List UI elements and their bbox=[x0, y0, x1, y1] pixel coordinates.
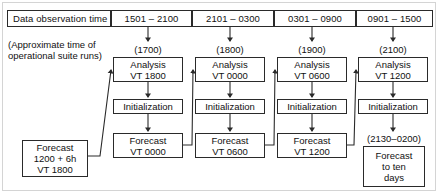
initialization-box-2: Initialization bbox=[195, 99, 265, 114]
initialization-box-1: Initialization bbox=[113, 99, 183, 114]
initialization-box-2-line-1: Initialization bbox=[205, 101, 255, 112]
run-time-annotation-1: (1700) bbox=[113, 44, 183, 55]
forecast-box-1: Forecast VT 0000 bbox=[113, 133, 183, 158]
analysis-box-3-line-1: Analysis bbox=[294, 59, 329, 70]
header-cell-observation-window-1: 1501 – 2100 bbox=[111, 10, 192, 27]
initialization-box-4-line-1: Initialization bbox=[368, 101, 418, 112]
seed-forecast-box: Forecast 1200 + 6h VT 1800 bbox=[22, 140, 88, 177]
seed-forecast-line-2: 1200 + 6h bbox=[34, 153, 77, 164]
header-cell-observation-window-2: 2101 – 0300 bbox=[192, 10, 274, 27]
seed-forecast-line-3: VT 1800 bbox=[37, 164, 73, 175]
forecast-box-4-line-3: days bbox=[384, 172, 404, 183]
analysis-box-4-line-2: VT 1200 bbox=[375, 70, 411, 81]
run-time-annotation-4: (2100) bbox=[358, 44, 428, 55]
flow-diagram-figure: Data observation time 1501 – 2100 2101 –… bbox=[0, 0, 443, 196]
initialization-box-3-line-1: Initialization bbox=[287, 101, 337, 112]
analysis-box-2-line-2: VT 0000 bbox=[212, 70, 248, 81]
analysis-box-2: Analysis VT 0000 bbox=[195, 57, 265, 82]
forecast-box-2-line-1: Forecast bbox=[212, 135, 249, 146]
forecast-box-3-line-2: VT 1200 bbox=[294, 146, 330, 157]
analysis-box-2-line-1: Analysis bbox=[212, 59, 247, 70]
analysis-box-3-line-2: VT 0600 bbox=[294, 70, 330, 81]
forecast-box-3-line-1: Forecast bbox=[294, 135, 331, 146]
forecast-box-2-line-2: VT 0600 bbox=[212, 146, 248, 157]
analysis-box-1: Analysis VT 1800 bbox=[113, 57, 183, 82]
run-time-annotation-3: (1900) bbox=[277, 44, 347, 55]
forecast-box-4-line-1: Forecast bbox=[376, 150, 413, 161]
header-cell-observation-window-3: 0301 – 0900 bbox=[274, 10, 356, 27]
seed-forecast-line-1: Forecast bbox=[37, 142, 74, 153]
side-note-line-2: operational suite runs) bbox=[8, 50, 102, 62]
run-time-annotation-2: (1800) bbox=[195, 44, 265, 55]
forecast-box-4-line-2: to ten bbox=[382, 161, 406, 172]
forecast-box-2: Forecast VT 0600 bbox=[195, 133, 265, 158]
forecast-box-1-line-1: Forecast bbox=[130, 135, 167, 146]
analysis-box-4: Analysis VT 1200 bbox=[358, 57, 428, 82]
forecast-box-4: Forecast to ten days bbox=[363, 146, 425, 187]
forecast-box-3: Forecast VT 1200 bbox=[277, 133, 347, 158]
initialization-box-3: Initialization bbox=[277, 99, 347, 114]
analysis-box-1-line-2: VT 1800 bbox=[130, 70, 166, 81]
initialization-box-1-line-1: Initialization bbox=[123, 101, 173, 112]
side-note-line-1: (Approximate time of bbox=[8, 39, 96, 51]
forecast-time-annotation-4: (2130–0200) bbox=[356, 133, 432, 144]
analysis-box-3: Analysis VT 0600 bbox=[277, 57, 347, 82]
initialization-box-4: Initialization bbox=[358, 99, 428, 114]
analysis-box-4-line-1: Analysis bbox=[375, 59, 410, 70]
forecast-box-1-line-2: VT 0000 bbox=[130, 146, 166, 157]
header-row-label: Data observation time bbox=[7, 10, 111, 27]
analysis-box-1-line-1: Analysis bbox=[130, 59, 165, 70]
header-cell-observation-window-4: 0901 – 1500 bbox=[356, 10, 433, 27]
